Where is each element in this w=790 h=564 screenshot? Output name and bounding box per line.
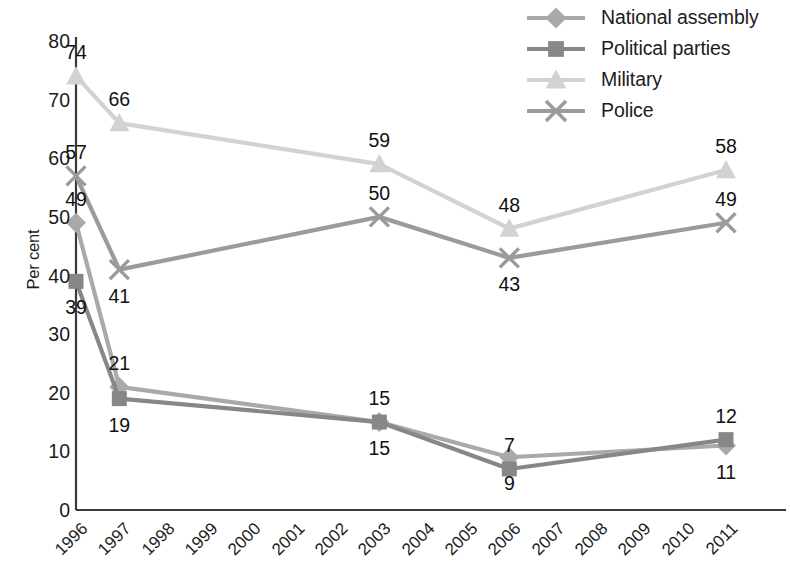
y-tick-label: 30: [28, 323, 70, 346]
legend-marker-icon: [525, 6, 587, 30]
legend-marker-icon: [525, 68, 587, 92]
data-point-marker: [719, 432, 734, 447]
legend-item-police[interactable]: Police: [525, 95, 787, 126]
data-point-value-label: 49: [65, 187, 87, 210]
legend-item-label: National assembly: [601, 8, 759, 28]
legend-item-national-assembly[interactable]: National assembly: [525, 2, 787, 33]
chart-legend: National assemblyPolitical partiesMilita…: [525, 2, 787, 126]
data-point-value-label: 11: [716, 460, 736, 483]
data-point-value-label: 74: [65, 41, 87, 64]
series-line: [76, 281, 726, 469]
data-point-value-label: 21: [108, 351, 130, 374]
data-point-value-label: 66: [108, 88, 130, 111]
series-police: [67, 166, 736, 279]
data-point-value-label: 48: [498, 193, 520, 216]
data-point-value-label: 39: [65, 296, 87, 319]
y-tick-label: 0: [28, 499, 70, 522]
y-tick-label: 10: [28, 440, 70, 463]
data-point-value-label: 50: [368, 181, 390, 204]
data-point-value-label: 15: [368, 437, 390, 460]
data-point-marker: [372, 415, 387, 430]
y-tick-label: 70: [28, 88, 70, 111]
y-tick-label: 40: [28, 264, 70, 287]
data-point-value-label: 15: [368, 387, 390, 410]
y-tick-label: 20: [28, 381, 70, 404]
legend-item-political-parties[interactable]: Political parties: [525, 33, 787, 64]
legend-marker-icon: [525, 99, 587, 123]
data-point-value-label: 9: [504, 472, 515, 495]
series-line: [76, 176, 726, 270]
data-point-marker: [112, 391, 127, 406]
data-point-value-label: 58: [715, 134, 737, 157]
series-political-parties: [69, 274, 734, 477]
data-point-value-label: 7: [504, 433, 515, 456]
legend-marker-icon: [525, 37, 587, 61]
legend-item-label: Military: [601, 70, 662, 90]
legend-item-military[interactable]: Military: [525, 64, 787, 95]
y-tick-label: 60: [28, 147, 70, 170]
data-point-value-label: 19: [108, 413, 130, 436]
y-tick-label: 50: [28, 205, 70, 228]
line-chart: National assemblyPolitical partiesMilita…: [0, 0, 790, 564]
data-point-value-label: 49: [715, 187, 737, 210]
data-point-value-label: 43: [498, 272, 520, 295]
legend-item-label: Political parties: [601, 39, 730, 59]
data-point-marker: [69, 274, 84, 289]
data-point-marker: [66, 66, 86, 84]
data-point-marker: [716, 160, 736, 178]
legend-item-label: Police: [601, 101, 654, 121]
data-point-value-label: 59: [368, 129, 390, 152]
data-point-value-label: 12: [715, 404, 737, 427]
data-point-value-label: 57: [65, 140, 87, 163]
y-tick-label: 80: [28, 30, 70, 53]
data-point-value-label: 41: [108, 284, 130, 307]
